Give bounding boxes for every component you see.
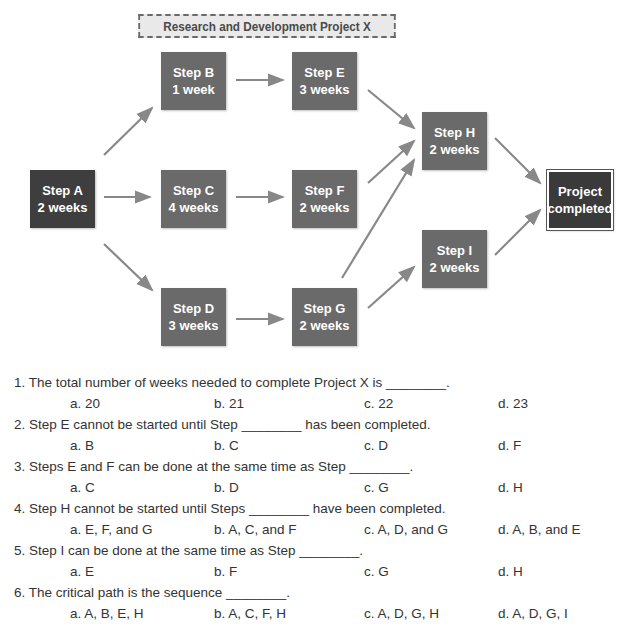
option-d: d. F [498, 435, 521, 456]
node-step-c: Step C 4 weeks [161, 170, 226, 228]
option-a: a. E [70, 561, 94, 582]
option-c: c. A, D, G, H [364, 603, 439, 624]
node-project-completed: Project completed [547, 170, 613, 230]
node-step-a: Step A 2 weeks [30, 170, 95, 228]
option-d: d. H [498, 477, 523, 498]
option-a: a. A, B, E, H [70, 603, 144, 624]
option-a: a. C [70, 477, 95, 498]
question-4-text: 4. Step H cannot be started until Steps … [14, 498, 624, 519]
question-6-options: a. A, B, E, H b. A, C, F, H c. A, D, G, … [14, 603, 624, 624]
arrow-f-h [368, 141, 414, 183]
arrow-a-d [104, 244, 152, 290]
question-5-text: 5. Step I can be done at the same time a… [14, 540, 624, 561]
node-step-h: Step H 2 weeks [422, 112, 487, 170]
quiz-questions: 1. The total number of weeks needed to c… [14, 372, 624, 624]
option-d: d. H [498, 561, 523, 582]
arrow-i-end [495, 210, 540, 255]
option-a: a. B [70, 435, 94, 456]
option-b: b. F [214, 561, 237, 582]
node-step-b: Step B 1 week [161, 52, 226, 110]
question-4-options: a. E, F, and G b. A, C, and F c. A, D, a… [14, 519, 624, 540]
node-step-d: Step D 3 weeks [161, 288, 226, 346]
question-5-options: a. E b. F c. G d. H [14, 561, 624, 582]
question-3-options: a. C b. D c. G d. H [14, 477, 624, 498]
option-a: a. 20 [70, 393, 100, 414]
option-c: c. G [364, 561, 389, 582]
option-b: b. 21 [214, 393, 244, 414]
question-1-options: a. 20 b. 21 c. 22 d. 23 [14, 393, 624, 414]
node-step-g: Step G 2 weeks [292, 288, 357, 346]
option-c: c. 22 [364, 393, 393, 414]
question-3-text: 3. Steps E and F can be done at the same… [14, 456, 624, 477]
question-2-text: 2. Step E cannot be started until Step _… [14, 414, 624, 435]
option-b: b. D [214, 477, 239, 498]
option-d: d. A, B, and E [498, 519, 581, 540]
option-b: b. A, C, F, H [214, 603, 286, 624]
arrow-h-end [495, 138, 540, 183]
arrow-a-b [104, 108, 152, 155]
question-2-options: a. B b. C c. D d. F [14, 435, 624, 456]
option-b: b. C [214, 435, 239, 456]
arrow-g-i [368, 267, 414, 308]
option-a: a. E, F, and G [70, 519, 153, 540]
arrow-e-h [368, 90, 414, 128]
question-6-text: 6. The critical path is the sequence ___… [14, 582, 624, 603]
node-step-e: Step E 3 weeks [292, 52, 357, 110]
node-step-f: Step F 2 weeks [292, 170, 357, 228]
question-1-text: 1. The total number of weeks needed to c… [14, 372, 624, 393]
option-b: b. A, C, and F [214, 519, 297, 540]
node-step-i: Step I 2 weeks [422, 230, 487, 288]
option-c: c. G [364, 477, 389, 498]
option-c: c. A, D, and G [364, 519, 448, 540]
option-d: d. A, D, G, I [498, 603, 568, 624]
option-c: c. D [364, 435, 388, 456]
option-d: d. 23 [498, 393, 528, 414]
